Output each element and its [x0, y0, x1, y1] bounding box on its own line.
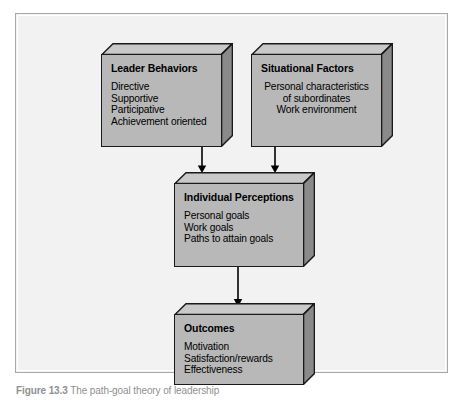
- box-side-face: [303, 172, 315, 267]
- box-side-face: [221, 43, 233, 147]
- box-title-outcomes: Outcomes: [184, 322, 294, 334]
- box-side-face: [381, 43, 393, 147]
- box-item: Motivation: [184, 341, 294, 353]
- box-side-face: [303, 303, 315, 385]
- figure-caption-label: Figure 13.3: [16, 385, 68, 396]
- box-outcomes: Outcomes Motivation Satisfaction/rewards…: [174, 303, 315, 385]
- box-situational-factors: Situational Factors Personal characteris…: [251, 43, 393, 147]
- box-item: Achievement oriented: [111, 116, 212, 128]
- box-item: Directive: [111, 81, 212, 93]
- box-item: Personal characteristics: [261, 81, 372, 93]
- box-item: Participative: [111, 104, 212, 116]
- box-item: Work goals: [184, 222, 294, 234]
- box-leader-behaviors: Leader Behaviors Directive Supportive Pa…: [101, 43, 233, 147]
- box-individual-perceptions: Individual Perceptions Personal goals Wo…: [174, 172, 315, 267]
- box-front-face: Leader Behaviors Directive Supportive Pa…: [101, 54, 222, 147]
- box-item: Supportive: [111, 93, 212, 105]
- figure-caption-text: The path-goal theory of leadership: [70, 385, 219, 396]
- box-front-face: Individual Perceptions Personal goals Wo…: [174, 183, 304, 267]
- box-title-leader-behaviors: Leader Behaviors: [111, 62, 212, 74]
- box-item: of subordinates: [261, 93, 372, 105]
- box-title-situational-factors: Situational Factors: [261, 62, 372, 74]
- box-item: Personal goals: [184, 210, 294, 222]
- box-front-face: Outcomes Motivation Satisfaction/rewards…: [174, 314, 304, 385]
- box-front-face: Situational Factors Personal characteris…: [251, 54, 382, 147]
- figure-frame: Leader Behaviors Directive Supportive Pa…: [15, 13, 448, 373]
- box-item: Work environment: [261, 104, 372, 116]
- connector-individual-perceptions-to-outcomes: [232, 262, 244, 308]
- box-item: Paths to attain goals: [184, 233, 294, 245]
- box-item: Effectiveness: [184, 364, 294, 376]
- box-title-individual-perceptions: Individual Perceptions: [184, 191, 294, 203]
- box-item: Satisfaction/rewards: [184, 353, 294, 365]
- figure-caption: Figure 13.3 The path-goal theory of lead…: [16, 385, 446, 396]
